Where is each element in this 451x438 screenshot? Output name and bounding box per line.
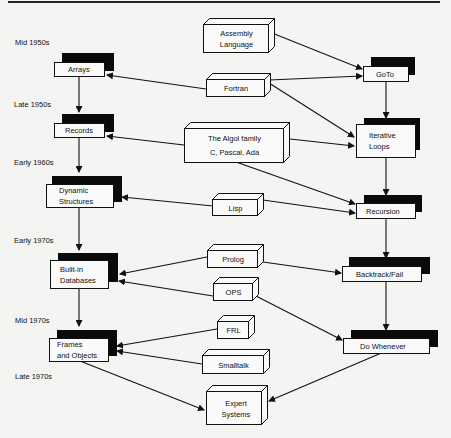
era-label: Late 1970s <box>15 372 52 381</box>
era-label: Mid 1970s <box>15 316 50 325</box>
concept-label: Loops <box>369 141 415 152</box>
concept-label: GoTo <box>376 69 408 80</box>
language-label: FRL <box>218 325 249 336</box>
concept-do-whenever: Do Whenever <box>343 330 438 354</box>
concept-recursion: Recursion <box>356 195 422 219</box>
language-label: Prolog <box>208 254 258 265</box>
concept-label: Built-in <box>60 264 108 275</box>
concept-label: Iterative <box>369 130 415 141</box>
concept-label: Frames <box>57 339 108 350</box>
concept-label: and Objects <box>57 350 108 361</box>
concept-records: Records <box>54 114 114 138</box>
concept-arrays: Arrays <box>54 53 114 77</box>
era-label: Early 1960s <box>14 158 54 167</box>
concept-label: Do Whenever <box>360 341 429 352</box>
concept-label: Recursion <box>366 206 415 217</box>
language-label: OPS <box>214 287 253 298</box>
concept-label: Records <box>65 125 104 136</box>
language-label: Expert <box>210 398 262 409</box>
language-label: C, Pascal, Ada <box>185 146 284 160</box>
concept-label: Arrays <box>68 64 104 75</box>
era-label: Early 1970s <box>14 236 54 245</box>
language-label: Fortran <box>207 83 265 94</box>
language-label: Language <box>204 39 269 50</box>
concept-built-in-databases: Built-in Databases <box>50 253 118 289</box>
concept-backtrack-fail: Backtrack/Fail <box>342 257 430 282</box>
language-label: Smalltalk <box>203 360 264 371</box>
era-label: Late 1950s <box>14 100 51 109</box>
language-label: Lisp <box>213 203 258 214</box>
concept-label: Databases <box>60 275 108 286</box>
era-label: Mid 1950s <box>15 38 50 47</box>
concept-frames-and-objects: Frames and Objects <box>49 330 117 362</box>
concept-label: Dynamic <box>59 185 113 196</box>
language-label: The Algol family <box>185 132 284 146</box>
concept-goto: GoTo <box>363 57 415 82</box>
concept-label: Structures <box>59 196 113 207</box>
concept-iterative-loops: Iterative Loops <box>356 118 420 158</box>
language-label: Systems <box>210 409 262 420</box>
language-label: Assembly <box>204 28 269 39</box>
concept-label: Backtrack/Fail <box>356 269 421 280</box>
concept-dynamic-structures: Dynamic Structures <box>46 176 122 208</box>
